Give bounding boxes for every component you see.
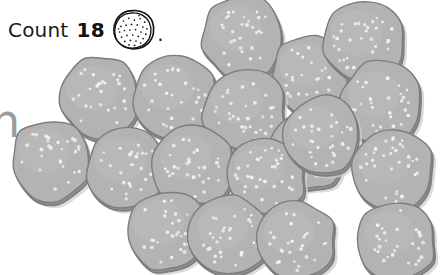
cookie-shape[interactable] xyxy=(349,194,442,275)
cookie-highlight xyxy=(197,205,248,250)
cookie-highlight xyxy=(358,138,410,184)
cookie-highlight xyxy=(364,211,414,255)
cookie-field xyxy=(0,0,442,275)
cookie-highlight xyxy=(66,66,117,111)
cookie-highlight xyxy=(133,200,184,245)
cookie-shape[interactable] xyxy=(249,193,343,275)
worksheet-page: Count 18 xyxy=(0,0,442,275)
cookie-highlight xyxy=(264,210,314,254)
cookie-highlight xyxy=(18,129,69,174)
